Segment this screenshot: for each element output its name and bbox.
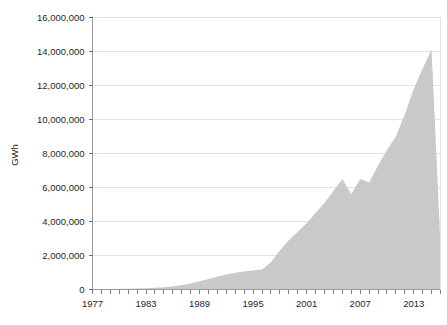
y-tick-label: 0 — [79, 284, 84, 295]
y-tick-label: 6,000,000 — [42, 182, 84, 193]
y-tick-label: 12,000,000 — [37, 80, 85, 91]
y-tick-label: 2,000,000 — [42, 250, 84, 261]
x-tick-label: 1989 — [189, 298, 210, 309]
y-tick-label: 4,000,000 — [42, 216, 84, 227]
x-tick-label: 2001 — [296, 298, 317, 309]
y-tick-label: 14,000,000 — [37, 46, 85, 57]
y-tick-label: 16,000,000 — [37, 12, 85, 23]
x-tick-label: 1983 — [135, 298, 156, 309]
chart-canvas: 02,000,0004,000,0006,000,0008,000,00010,… — [0, 0, 447, 325]
x-tick-label: 1995 — [243, 298, 264, 309]
x-tick-label: 2013 — [403, 298, 424, 309]
x-axis-ticks-group — [93, 290, 441, 294]
y-tick-label: 10,000,000 — [37, 114, 85, 125]
x-axis-tick-labels: 1977198319891995200120072013 — [82, 298, 424, 309]
y-axis-tick-labels: 02,000,0004,000,0006,000,0008,000,00010,… — [37, 12, 85, 295]
x-tick-label: 1977 — [82, 298, 103, 309]
y-axis-title: GWh — [9, 144, 20, 166]
x-tick-label: 2007 — [350, 298, 371, 309]
y-tick-label: 8,000,000 — [42, 148, 84, 159]
area-chart-figure: 02,000,0004,000,0006,000,0008,000,00010,… — [0, 0, 447, 325]
y-axis-ticks-group — [89, 18, 93, 290]
